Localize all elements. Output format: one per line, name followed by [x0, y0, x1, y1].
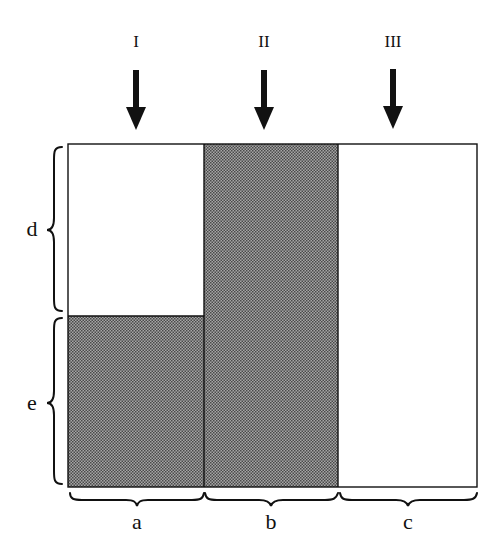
column-label-a: a [132, 509, 142, 534]
down-arrow-icon [126, 70, 146, 130]
arrow-labels: I II III [133, 32, 402, 51]
brace-e [47, 318, 62, 484]
down-arrows [126, 69, 403, 130]
column-label-b: b [266, 509, 277, 534]
shaded-region-b-full [204, 144, 338, 487]
row-label-e: e [27, 390, 37, 415]
row-label-d: d [27, 216, 38, 241]
brace-c [340, 493, 477, 506]
arrow-label-1: I [133, 32, 139, 51]
bottom-braces [70, 493, 477, 506]
shaded-region-a-lower [68, 316, 204, 487]
arrow-label-3: III [385, 32, 402, 51]
down-arrow-icon [383, 69, 403, 129]
left-braces [47, 147, 62, 484]
arrow-label-2: II [258, 32, 270, 51]
down-arrow-icon [254, 70, 274, 130]
brace-a [70, 493, 204, 506]
block-diagram: I II III d e [0, 0, 503, 552]
column-label-c: c [403, 509, 413, 534]
brace-b [205, 493, 338, 506]
brace-d [47, 147, 62, 311]
